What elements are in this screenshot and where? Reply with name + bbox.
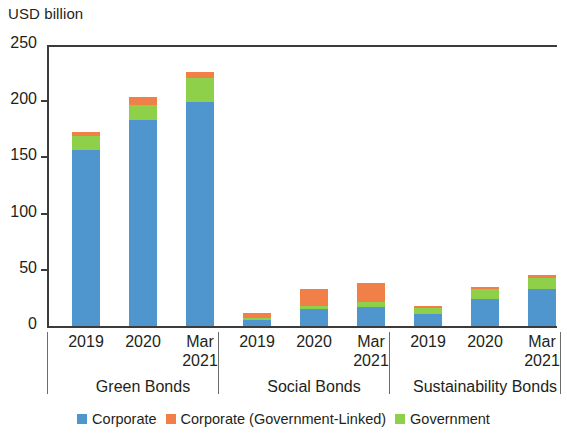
legend-label: Government	[410, 411, 490, 427]
bar-segment[interactable]	[357, 307, 385, 326]
bar-segment[interactable]	[129, 120, 157, 326]
bar-segment[interactable]	[300, 289, 328, 306]
bar-segment[interactable]	[186, 78, 214, 103]
legend-swatch-icon	[395, 414, 405, 424]
x-axis-group-label: Sustainability Bonds	[375, 378, 567, 396]
x-axis-tick-label: Mar 2021	[502, 332, 567, 370]
bar-segment[interactable]	[186, 102, 214, 326]
bar[interactable]	[414, 45, 442, 326]
bar-segment[interactable]	[300, 309, 328, 326]
x-axis-group-divider	[218, 332, 219, 394]
y-axis-title: USD billion	[8, 5, 83, 22]
legend-swatch-icon	[166, 414, 176, 424]
legend-item[interactable]: Corporate	[77, 411, 156, 427]
y-axis-tick-mark	[41, 269, 49, 271]
legend-item[interactable]: Corporate (Government-Linked)	[166, 411, 387, 427]
bar[interactable]	[357, 45, 385, 326]
legend-label: Corporate (Government-Linked)	[181, 411, 387, 427]
bar-segment[interactable]	[357, 283, 385, 302]
y-axis-tick-label: 150	[10, 146, 37, 164]
chart-legend: CorporateCorporate (Government-Linked)Go…	[0, 411, 567, 427]
y-axis-tick-label: 100	[10, 203, 37, 221]
bar[interactable]	[471, 45, 499, 326]
y-axis-tick-label: 250	[10, 34, 37, 52]
bar-segment[interactable]	[72, 150, 100, 326]
y-axis-tick-mark	[41, 100, 49, 102]
bar[interactable]	[72, 45, 100, 326]
y-axis-tick-label: 50	[19, 259, 37, 277]
bar[interactable]	[300, 45, 328, 326]
bar[interactable]	[243, 45, 271, 326]
legend-swatch-icon	[77, 414, 87, 424]
bar-segment[interactable]	[471, 289, 499, 299]
bar-segment[interactable]	[129, 105, 157, 121]
bar-segment[interactable]	[129, 97, 157, 105]
x-axis-group-divider	[389, 332, 390, 394]
bar[interactable]	[186, 45, 214, 326]
bar-segment[interactable]	[243, 320, 271, 326]
y-axis-tick-label: 200	[10, 90, 37, 108]
bar-segment[interactable]	[528, 289, 556, 326]
bar[interactable]	[528, 45, 556, 326]
stacked-bar-chart: USD billion 050100150200250 20192020Mar …	[0, 0, 567, 437]
x-axis-line	[47, 326, 557, 328]
y-axis-tick-mark	[41, 213, 49, 215]
x-axis-group-divider	[560, 332, 561, 394]
bar-segment[interactable]	[471, 299, 499, 326]
bar-segment[interactable]	[528, 278, 556, 289]
y-axis-tick-mark	[41, 156, 49, 158]
bar-segment[interactable]	[414, 314, 442, 326]
bar-segment[interactable]	[72, 136, 100, 149]
legend-item[interactable]: Government	[395, 411, 490, 427]
legend-label: Corporate	[92, 411, 156, 427]
bar[interactable]	[129, 45, 157, 326]
x-axis-group-divider	[47, 332, 48, 394]
y-axis-tick-label: 0	[28, 315, 37, 333]
